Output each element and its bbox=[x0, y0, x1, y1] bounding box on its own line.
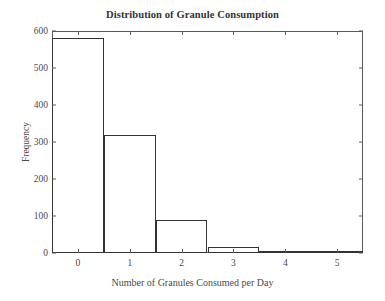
y-axis-label: Frequency bbox=[21, 122, 31, 162]
y-tick-label: 100 bbox=[34, 211, 48, 221]
y-tick-label: 400 bbox=[34, 100, 48, 110]
x-tick-mark bbox=[337, 249, 338, 253]
y-tick-mark-right bbox=[359, 216, 363, 217]
x-tick-mark bbox=[285, 249, 286, 253]
y-tick-mark-right bbox=[359, 31, 363, 32]
x-tick-label: 3 bbox=[231, 258, 236, 268]
y-tick-mark bbox=[52, 31, 56, 32]
y-tick-mark bbox=[52, 179, 56, 180]
y-tick-mark-right bbox=[359, 179, 363, 180]
y-tick-mark bbox=[52, 68, 56, 69]
x-tick-mark-top bbox=[130, 31, 131, 35]
histogram-bar bbox=[52, 38, 104, 253]
plot-area: 0100200300400500600 012345 bbox=[52, 31, 363, 253]
x-tick-mark-top bbox=[233, 31, 234, 35]
y-tick-label: 200 bbox=[34, 174, 48, 184]
y-tick-mark-right bbox=[359, 68, 363, 69]
x-tick-label: 2 bbox=[179, 258, 184, 268]
x-axis-label: Number of Granules Consumed per Day bbox=[0, 277, 385, 288]
y-tick-mark bbox=[52, 142, 56, 143]
y-tick-mark-right bbox=[359, 105, 363, 106]
y-tick-label: 500 bbox=[34, 63, 48, 73]
x-tick-mark-top bbox=[78, 31, 79, 35]
y-tick-mark bbox=[52, 253, 56, 254]
histogram-figure: Distribution of Granule Consumption 0100… bbox=[0, 0, 385, 301]
x-tick-label: 1 bbox=[127, 258, 132, 268]
x-tick-mark-top bbox=[337, 31, 338, 35]
y-tick-label: 0 bbox=[43, 248, 48, 258]
histogram-bar bbox=[104, 135, 156, 253]
x-tick-mark-top bbox=[285, 31, 286, 35]
y-tick-mark bbox=[52, 105, 56, 106]
x-tick-label: 0 bbox=[76, 258, 81, 268]
y-tick-label: 600 bbox=[34, 26, 48, 36]
x-tick-label: 5 bbox=[335, 258, 340, 268]
x-tick-mark-top bbox=[182, 31, 183, 35]
x-tick-mark bbox=[182, 249, 183, 253]
y-tick-mark-right bbox=[359, 142, 363, 143]
y-tick-label: 300 bbox=[34, 137, 48, 147]
x-tick-label: 4 bbox=[283, 258, 288, 268]
chart-title: Distribution of Granule Consumption bbox=[0, 9, 385, 20]
x-tick-mark bbox=[233, 249, 234, 253]
x-tick-mark bbox=[130, 249, 131, 253]
y-tick-mark-right bbox=[359, 253, 363, 254]
x-tick-mark bbox=[78, 249, 79, 253]
y-tick-mark bbox=[52, 216, 56, 217]
